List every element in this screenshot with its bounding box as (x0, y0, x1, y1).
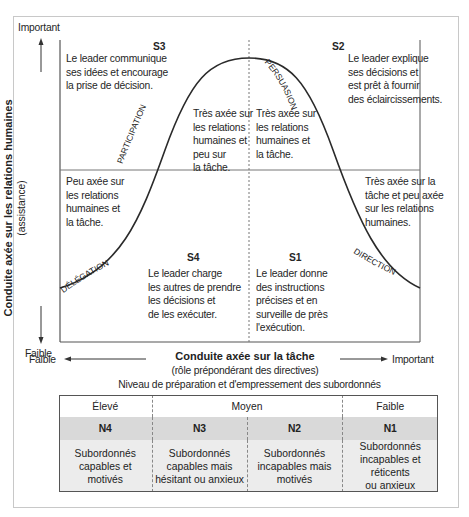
quadrant-text-s3: Le leader communiqueses idées et encoura… (66, 52, 168, 93)
y-axis-title: Conduite axée sur les relations humaines… (2, 98, 38, 318)
x-axis-right-label: Important (392, 353, 434, 367)
note-high-relations-low-task: Très axée surles relationshumaines etpeu… (193, 107, 253, 175)
arrow-left-icon (64, 357, 71, 362)
desc-n3: Subordonnéscapables maishésitant ou anxi… (152, 440, 247, 492)
code-n1: N1 (342, 417, 438, 440)
code-n2: N2 (247, 417, 342, 440)
quadrant-code-s4: S4 (187, 251, 199, 265)
quadrant-text-s2: Le leader expliqueses décisions etest pr… (348, 52, 442, 106)
y-axis-top-label: Important (18, 21, 60, 35)
readiness-title: Niveau de préparation et d'empressement … (60, 378, 439, 392)
arrow-up-icon (39, 38, 44, 45)
x-axis-title: Conduite axée sur la tâche (150, 350, 340, 362)
level-low: Faible (342, 395, 438, 417)
arrow-down-icon (39, 337, 44, 344)
curve-label-participation: PARTICIPATION (115, 103, 148, 165)
note-high-relations-high-task: Très axée surles relationshumaines etla … (256, 107, 316, 161)
quadrant-text-s1: Le leader donnedes instructionsprécises … (256, 267, 328, 335)
readiness-table: Élevé Moyen Faible N4 N3 N2 N1 Subordonn… (59, 395, 438, 492)
code-n3: N3 (152, 417, 247, 440)
level-high: Élevé (59, 395, 152, 417)
code-n4: N4 (59, 417, 152, 440)
quadrant-code-s2: S2 (332, 40, 344, 54)
curve-label-delegation: DÉLÉGATION (59, 258, 111, 295)
desc-n4: Subordonnéscapables etmotivés (59, 440, 152, 492)
desc-n2: Subordonnésincapables maismotivés (247, 440, 342, 492)
x-axis-left-label: Faible (29, 353, 56, 367)
level-medium: Moyen (152, 395, 342, 417)
quadrant-code-s1: S1 (289, 251, 301, 265)
note-low-relations-low-task: Peu axée surles relationshumaines etla t… (66, 175, 124, 229)
desc-n1: Subordonnésincapables et réticentsou anx… (342, 440, 438, 492)
note-high-task-low-relations: Très axée sur latâche et peu axéesur les… (365, 175, 443, 229)
x-axis-subtitle: (rôle prépondérant des directives) (150, 364, 340, 378)
arrow-right-icon (381, 357, 388, 362)
quadrant-text-s4: Le leader chargeles autres de prendreles… (148, 267, 241, 321)
curve-label-direction: DIRECTION (352, 246, 398, 277)
